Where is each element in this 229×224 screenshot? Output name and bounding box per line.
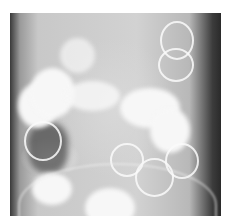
transverse-colon-left [65, 81, 120, 111]
cecum-ring [24, 121, 62, 161]
xray-image [10, 13, 221, 216]
descending-colon-ring-1 [158, 48, 194, 82]
caption-strip [0, 0, 229, 6]
hepatic-flexure [60, 38, 95, 73]
